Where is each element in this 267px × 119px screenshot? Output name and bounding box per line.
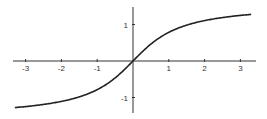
arctan-chart: -3-2-11231-1 bbox=[0, 0, 267, 119]
x-tick-label: 1 bbox=[167, 64, 172, 73]
x-tick-label: -3 bbox=[22, 64, 30, 73]
x-tick-label: -2 bbox=[58, 64, 66, 73]
x-tick-label: 2 bbox=[202, 64, 207, 73]
x-tick-label: -1 bbox=[94, 64, 102, 73]
y-tick-label: 1 bbox=[124, 21, 129, 30]
y-tick-label: -1 bbox=[121, 94, 129, 103]
x-tick-label: 3 bbox=[238, 64, 243, 73]
